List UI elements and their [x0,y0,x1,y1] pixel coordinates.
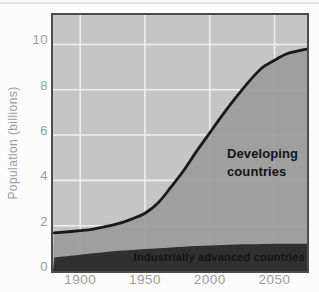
y-tick-label: 6 [18,123,48,139]
x-tick-label: 2050 [250,273,300,287]
figure-container: Population (billions) 0246810 1900195020… [0,0,319,292]
x-tick-label: 2000 [185,273,235,287]
y-tick-label: 10 [18,32,48,48]
y-tick-label: 0 [18,259,48,275]
developing-countries-label: Developing countries [227,145,298,181]
y-tick-label: 4 [18,168,48,184]
y-tick-label: 8 [18,78,48,94]
advanced-countries-label: Industrially advanced countries [134,251,305,263]
page-edge-line [0,2,319,4]
x-tick-label: 1950 [120,273,170,287]
population-chart-svg [53,15,307,271]
y-tick-label: 2 [18,214,48,230]
plot-area: Developing countries Industrially advanc… [51,13,309,273]
x-tick-label: 1900 [55,273,105,287]
